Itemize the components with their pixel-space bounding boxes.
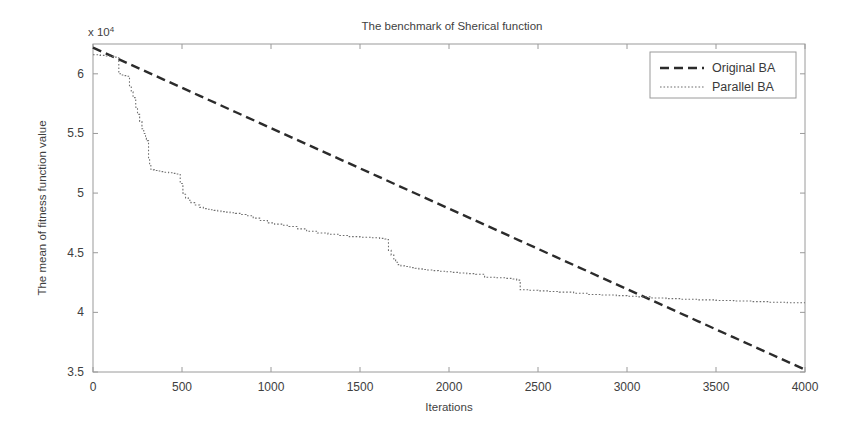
y-axis-exponent-base: x 10 (88, 26, 110, 38)
x-tick-label: 3000 (614, 380, 641, 394)
x-tick-label: 2500 (525, 380, 552, 394)
y-tick-label: 5 (77, 186, 84, 200)
chart-title: The benchmark of Sherical function (362, 20, 543, 32)
y-axis-exponent-label: x 104 (88, 25, 115, 38)
y-tick-label: 3.5 (67, 365, 84, 379)
x-tick-label: 1500 (347, 380, 374, 394)
x-tick-label: 2000 (436, 380, 463, 394)
chart-legend[interactable]: Original BA Parallel BA (650, 52, 796, 98)
y-tick-label: 6 (77, 67, 84, 81)
x-tick-label: 500 (172, 380, 192, 394)
x-tick-label: 1000 (258, 380, 285, 394)
y-tick-label: 4 (77, 305, 84, 319)
x-axis-tick-labels: 05001000150020002500300035004000 (90, 380, 819, 394)
y-axis-ticks (93, 74, 805, 372)
chart-figure: The benchmark of Sherical function x 104… (0, 0, 844, 437)
x-tick-label: 3500 (703, 380, 730, 394)
legend-label-parallel-ba: Parallel BA (712, 80, 774, 94)
x-tick-label: 4000 (792, 380, 819, 394)
y-axis-tick-labels: 3.544.555.56 (67, 67, 84, 379)
y-tick-label: 5.5 (67, 126, 84, 140)
y-axis-exponent-power: 4 (110, 25, 115, 34)
x-tick-label: 0 (90, 380, 97, 394)
x-axis-label: Iterations (425, 401, 473, 413)
legend-label-original-ba: Original BA (712, 61, 776, 75)
y-axis-label: The mean of fitness function value (36, 120, 48, 295)
benchmark-line-chart: The benchmark of Sherical function x 104… (0, 0, 844, 437)
y-tick-label: 4.5 (67, 246, 84, 260)
